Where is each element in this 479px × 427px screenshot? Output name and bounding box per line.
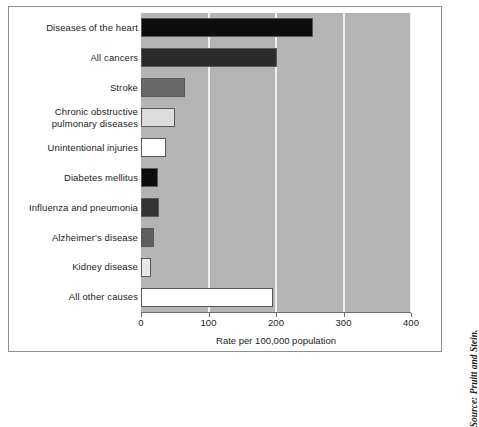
category-label-line: Diabetes mellitus — [14, 172, 138, 184]
bar — [141, 108, 175, 127]
category-label-line: Stroke — [14, 82, 138, 94]
x-axis-title: Rate per 100,000 population — [141, 335, 411, 346]
bar — [141, 258, 151, 277]
category-label-line: Kidney disease — [14, 261, 138, 273]
bar — [141, 78, 185, 97]
category-label-line: All cancers — [14, 52, 138, 64]
x-tick-label: 400 — [403, 317, 419, 328]
category-label: Diseases of the heart — [14, 22, 138, 34]
bar — [141, 228, 154, 247]
bar — [141, 18, 313, 37]
bar — [141, 48, 277, 67]
bar — [141, 288, 273, 307]
bar — [141, 168, 158, 187]
category-label-line: pulmonary diseases — [14, 118, 138, 130]
category-axis-labels: Diseases of the heartAll cancersStrokeCh… — [14, 13, 138, 312]
category-label-line: Influenza and pneumonia — [14, 202, 138, 214]
x-tick-label: 300 — [336, 317, 352, 328]
x-tick-label: 100 — [201, 317, 217, 328]
category-label: Chronic obstructivepulmonary diseases — [14, 106, 138, 129]
bars-layer — [141, 13, 411, 312]
category-label-line: Diseases of the heart — [14, 22, 138, 34]
category-label-line: Chronic obstructive — [14, 106, 138, 118]
category-label: Kidney disease — [14, 261, 138, 273]
category-label: All cancers — [14, 52, 138, 64]
x-tick-label: 200 — [268, 317, 284, 328]
category-label: Unintentional injuries — [14, 142, 138, 154]
category-label: All other causes — [14, 291, 138, 303]
category-label: Diabetes mellitus — [14, 172, 138, 184]
category-label-line: Unintentional injuries — [14, 142, 138, 154]
category-label: Stroke — [14, 82, 138, 94]
bar — [141, 138, 166, 157]
category-label-line: All other causes — [14, 291, 138, 303]
x-tick-label: 0 — [138, 317, 143, 328]
source-credit: Source: Pruitt and Stein. — [469, 330, 479, 427]
category-label: Alzheimer's disease — [14, 232, 138, 244]
bar — [141, 198, 159, 217]
category-label: Influenza and pneumonia — [14, 202, 138, 214]
category-label-line: Alzheimer's disease — [14, 232, 138, 244]
